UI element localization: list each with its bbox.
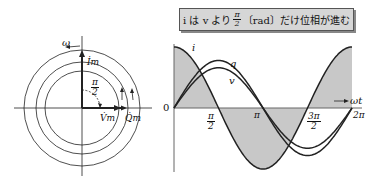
banner-text-pre: i は v より <box>183 12 231 27</box>
phase-lead-banner: i は v より π 2 〔rad〕だけ位相が進む <box>179 8 354 31</box>
axis-label-omega-t: ωt <box>350 95 362 106</box>
banner-fraction: π 2 <box>233 11 240 28</box>
voltage-phasor-label: V̇m <box>100 113 115 123</box>
tick-three-pi-half: 3π 2 <box>307 112 321 131</box>
q-label: q <box>230 58 236 69</box>
tick-pi-half: π 2 <box>207 112 215 131</box>
tick-pi: π <box>254 110 260 120</box>
charge-phasor-label: Q̇m <box>125 113 141 123</box>
waveform-chart <box>174 44 362 172</box>
v-label: v <box>229 75 235 86</box>
tick-zero: 0 <box>163 102 169 113</box>
banner-text-post: 〔rad〕だけ位相が進む <box>243 12 350 27</box>
angle-label: π 2 <box>91 78 99 97</box>
phasor-diagram <box>14 36 152 176</box>
omega-label: ω <box>62 37 70 48</box>
tick-two-pi: 2π <box>353 110 365 120</box>
current-phasor-label: İm <box>87 57 99 67</box>
i-label: i <box>192 42 195 53</box>
